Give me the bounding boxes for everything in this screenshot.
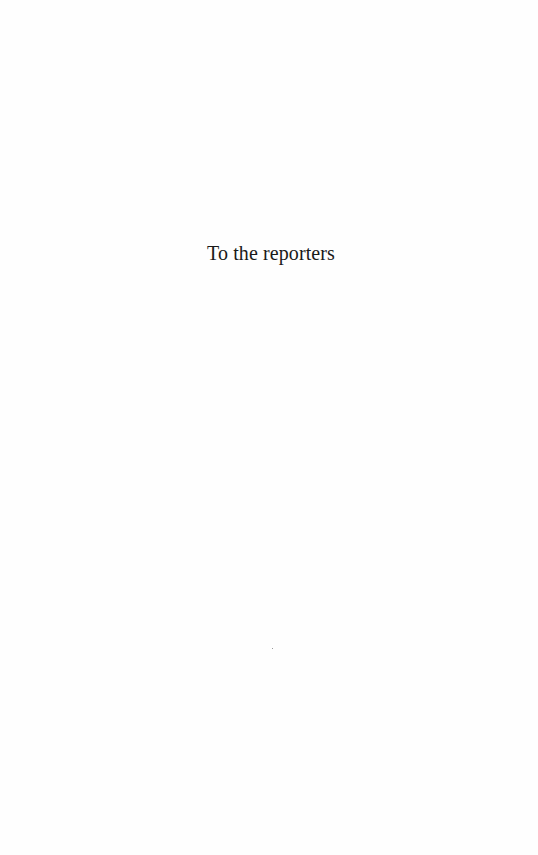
dedication-text: To the reporters: [0, 239, 538, 267]
book-page: To the reporters: [0, 0, 538, 855]
scan-artifact: [272, 648, 273, 649]
